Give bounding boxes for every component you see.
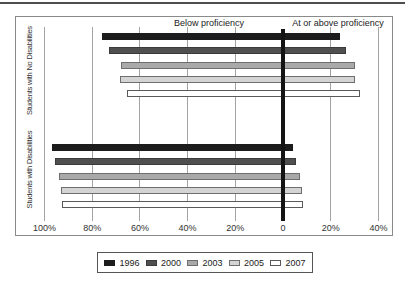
gridline (378, 27, 379, 221)
legend: 19962000200320052007 (97, 252, 313, 273)
legend-label: 2007 (285, 258, 305, 268)
axis-tick-label: 0 (263, 223, 303, 233)
legend-swatch-2005 (229, 260, 240, 266)
bar-2005-disabilities (61, 187, 301, 194)
above-proficiency-header: At or above proficiency (292, 18, 384, 28)
bar-2000-disabilities (55, 158, 296, 165)
legend-label: 2000 (161, 258, 181, 268)
legend-swatch-1996 (104, 260, 115, 266)
legend-label: 1996 (119, 258, 139, 268)
legend-swatch-2000 (146, 260, 157, 266)
legend-item-2005: 2005 (229, 258, 264, 268)
axis-tick-label: 20% (311, 223, 351, 233)
bar-2007-no-disabilities (127, 90, 361, 97)
bar-2003-no-disabilities (121, 62, 355, 69)
gridline (330, 27, 331, 221)
legend-label: 2003 (202, 258, 222, 268)
axis-tick-label: 100% (25, 223, 65, 233)
axis-tick-label: 20% (215, 223, 255, 233)
bar-2005-no-disabilities (120, 76, 355, 83)
legend-item-2000: 2000 (146, 258, 181, 268)
bar-2000-no-disabilities (109, 47, 346, 54)
axis-tick-label: 60% (120, 223, 160, 233)
legend-item-1996: 1996 (104, 258, 139, 268)
chart-frame: Below proficiency At or above proficienc… (15, 16, 393, 236)
axis-tick-label: 80% (72, 223, 112, 233)
bar-2003-disabilities (59, 173, 300, 180)
zero-axis-line (281, 29, 285, 221)
below-proficiency-header: Below proficiency (174, 18, 244, 28)
legend-item-2007: 2007 (270, 258, 305, 268)
top-divider-rule (0, 2, 405, 4)
bar-1996-disabilities (52, 144, 293, 151)
legend-swatch-2007 (270, 260, 281, 266)
legend-label: 2005 (244, 258, 264, 268)
legend-item-2003: 2003 (187, 258, 222, 268)
group-label-disabilities: Students with Disabilities (24, 120, 35, 220)
legend-swatch-2003 (187, 260, 198, 266)
axis-tick-label: 40% (358, 223, 398, 233)
screenshot-root: Below proficiency At or above proficienc… (0, 0, 405, 287)
axis-tick-label: 40% (168, 223, 208, 233)
bar-1996-no-disabilities (102, 33, 341, 40)
gridline (44, 27, 45, 221)
group-label-no-disabilities: Students with No Disabilities (24, 21, 35, 121)
bar-2007-disabilities (62, 201, 302, 208)
